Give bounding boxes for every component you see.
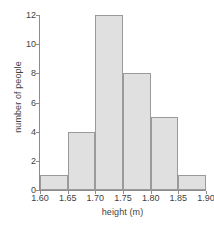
x-axis-tick-label: 1.90 — [189, 193, 214, 204]
y-axis-tick-label: 2 — [18, 156, 36, 166]
y-axis-tick-label: 8 — [18, 68, 36, 78]
histogram-bar — [178, 175, 206, 190]
y-axis-tick-labels: 024681012 — [14, 0, 36, 225]
plot-area — [40, 15, 206, 190]
histogram-bar — [40, 175, 68, 190]
histogram-bar — [68, 132, 96, 190]
histogram-chart: number of people 024681012 1.601.651.701… — [0, 0, 214, 225]
y-axis-tick-label: 12 — [18, 10, 36, 20]
histogram-bar — [95, 15, 123, 190]
y-axis-tick-label: 6 — [18, 98, 36, 108]
x-axis-title: height (m) — [39, 206, 206, 218]
histogram-bar — [123, 73, 151, 190]
y-axis-tick-label: 10 — [18, 39, 36, 49]
y-axis-tick-label: 4 — [18, 127, 36, 137]
histogram-bar — [151, 117, 179, 190]
